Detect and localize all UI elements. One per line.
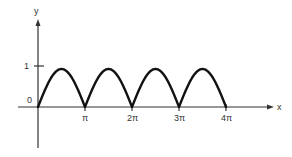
x-tick-label-pi: π: [82, 113, 88, 123]
x-tick-label-3pi: 3π: [174, 113, 185, 123]
curve-abs-sin: [38, 69, 226, 107]
y-tick-label-1: 1: [24, 61, 29, 71]
x-tick-label-4pi: 4π: [221, 113, 232, 123]
x-axis-label: x: [277, 102, 282, 112]
x-axis-arrow-icon: [267, 105, 274, 110]
y-axis-label: y: [34, 6, 39, 16]
origin-label: 0: [27, 95, 32, 105]
chart-canvas: y x 1 0 π 2π 3π 4π: [0, 0, 292, 157]
x-tick-label-2pi: 2π: [127, 113, 138, 123]
y-axis-arrow-icon: [36, 19, 41, 26]
